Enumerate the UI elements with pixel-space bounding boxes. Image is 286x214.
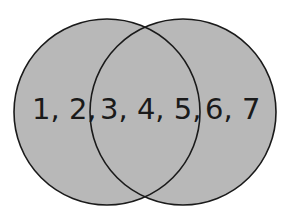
left-only-label: 1, 2, <box>32 92 97 126</box>
right-only-label: 6, 7 <box>205 92 260 126</box>
intersection-label: 3, 4, 5, <box>100 92 201 126</box>
venn-diagram: 1, 2, 3, 4, 5, 6, 7 <box>0 0 286 214</box>
